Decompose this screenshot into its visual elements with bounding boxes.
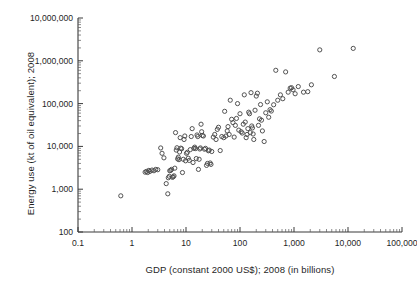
data-point <box>173 131 177 135</box>
data-point <box>190 127 194 131</box>
data-point <box>293 92 297 96</box>
data-point <box>160 151 164 155</box>
data-point <box>214 137 218 141</box>
data-point <box>226 125 230 129</box>
data-point <box>276 98 280 102</box>
data-points-layer <box>119 46 356 198</box>
data-point <box>235 102 239 106</box>
data-point <box>258 102 262 106</box>
y-tick-label: 1,000,000 <box>35 56 73 66</box>
data-point <box>351 46 355 50</box>
data-point <box>249 91 253 95</box>
data-point <box>196 167 200 171</box>
data-point <box>189 134 193 138</box>
data-point <box>246 127 250 131</box>
y-axis-title: Energy use (kt of oil equivalent); 2008 <box>25 34 36 234</box>
y-tick-label: 100,000 <box>42 99 73 109</box>
data-point <box>332 74 336 78</box>
data-point <box>286 90 290 94</box>
data-point <box>253 108 257 112</box>
y-tick-label: 100 <box>59 227 74 237</box>
data-point <box>218 148 222 152</box>
data-point <box>265 100 269 104</box>
tick-label-layer: 0.11101001,00010,000100,0001001,00010,00… <box>30 13 417 248</box>
data-point <box>199 122 203 126</box>
data-point <box>164 182 168 186</box>
data-point <box>272 103 276 107</box>
data-point <box>166 192 170 196</box>
data-point <box>162 156 166 160</box>
x-tick-label: 0.1 <box>72 238 84 248</box>
data-point <box>264 111 268 115</box>
data-point <box>274 68 278 72</box>
x-tick-label: 100,000 <box>386 238 417 248</box>
data-point <box>301 90 305 94</box>
data-point <box>242 93 246 97</box>
data-point <box>284 70 288 74</box>
y-tick-label: 10,000 <box>47 141 74 151</box>
scatter-plot-figure: Energy use (kt of oil equivalent); 2008 … <box>0 0 417 286</box>
data-point <box>238 112 242 116</box>
data-point <box>256 123 260 127</box>
data-point <box>233 123 237 127</box>
data-point <box>191 160 195 164</box>
plot-canvas: 0.11101001,00010,000100,0001001,00010,00… <box>0 0 417 286</box>
data-point <box>228 98 232 102</box>
y-tick-label: 1,000 <box>51 184 73 194</box>
data-point <box>296 84 300 88</box>
data-point <box>232 135 236 139</box>
y-tick-label: 10,000,000 <box>30 13 73 23</box>
x-tick-label: 10,000 <box>335 238 362 248</box>
data-point <box>159 146 163 150</box>
x-axis-title: GDP (constant 2000 US$); 2008 (in billio… <box>78 264 402 275</box>
data-point <box>252 137 256 141</box>
x-tick-label: 100 <box>233 238 248 248</box>
data-point <box>267 115 271 119</box>
data-point <box>234 116 238 120</box>
data-point <box>197 157 201 161</box>
data-point <box>223 109 227 113</box>
data-point <box>281 97 285 101</box>
data-point <box>306 90 310 94</box>
data-point <box>260 129 264 133</box>
x-tick-label: 1,000 <box>283 238 305 248</box>
data-point <box>318 48 322 52</box>
data-point <box>309 83 313 87</box>
x-tick-label: 10 <box>181 238 191 248</box>
data-point <box>180 170 184 174</box>
data-point <box>262 139 266 143</box>
data-point <box>119 194 123 198</box>
data-point <box>194 156 198 160</box>
x-tick-label: 1 <box>130 238 135 248</box>
